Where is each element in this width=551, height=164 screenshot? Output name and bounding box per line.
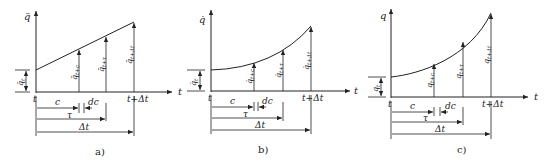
panel-b: q̇ t q̇t+c q̇t+τ q̇t+Δt q̇t t t+Δt c dc: [187, 10, 359, 155]
initial-value-label: qt: [371, 84, 381, 92]
dim-dt-label: Δt: [254, 120, 265, 130]
x-axis-label: t: [354, 85, 359, 96]
dim-dt-label: Δt: [78, 122, 89, 132]
load-curve: [391, 13, 491, 77]
y-axis-label: q: [380, 10, 386, 21]
dim-c-label: c: [230, 96, 235, 106]
dim-dt-label: Δt: [434, 124, 445, 134]
dim-dc-label: dc: [262, 96, 273, 106]
panel-a: q̈ t q̈t+c q̈t+τ q̈t+Δt q̈t t t+Δt: [15, 11, 183, 157]
ordinate-label-t-plus-tau: q̇t+τ: [274, 62, 284, 78]
end-label: t+Δt: [482, 99, 504, 109]
dim-dc-label: dc: [445, 101, 456, 111]
ordinate-label-t-plus-dt: q̈t+Δt: [125, 45, 135, 64]
x-axis-label: t: [534, 91, 539, 102]
end-label: t+Δt: [127, 94, 149, 104]
dim-tau-label: τ: [423, 113, 429, 123]
x-axis-label: t: [178, 86, 183, 97]
ordinate-label-t-plus-dt: q̇t+Δt: [302, 51, 312, 70]
load-line: [36, 22, 134, 70]
dim-c-label: c: [55, 97, 60, 107]
ordinate-label-t-plus-c: q̈t+c: [70, 65, 80, 80]
dim-tau-label: τ: [243, 109, 249, 119]
dim-c-label: c: [410, 101, 415, 111]
ordinate-label-t-plus-c: qt+c: [425, 73, 435, 88]
dim-tau-label: τ: [67, 110, 73, 120]
initial-value-label: q̈t: [16, 78, 26, 86]
origin-label: t: [33, 94, 37, 104]
y-axis-label: q̇: [199, 14, 205, 25]
initial-value-label: q̇t: [189, 78, 199, 86]
panel-caption: b): [258, 144, 268, 155]
panel-caption: a): [95, 146, 105, 157]
ordinate-label-t-plus-tau: qt+τ: [454, 63, 464, 79]
end-label: t+Δt: [302, 93, 324, 103]
panel-caption: c): [457, 144, 467, 155]
dim-dc-label: dc: [88, 97, 99, 107]
ordinate-label-t-plus-c: q̇t+c: [245, 69, 255, 84]
panel-c: q t qt+c qt+τ qt+Δt qt t t+Δt c dc τ: [368, 9, 539, 155]
y-axis-label: q̈: [24, 11, 30, 22]
load-curve: [211, 26, 311, 70]
ordinate-label-t-plus-dt: qt+Δt: [482, 45, 492, 64]
ordinate-label-t-plus-tau: q̈t+τ: [97, 56, 107, 72]
